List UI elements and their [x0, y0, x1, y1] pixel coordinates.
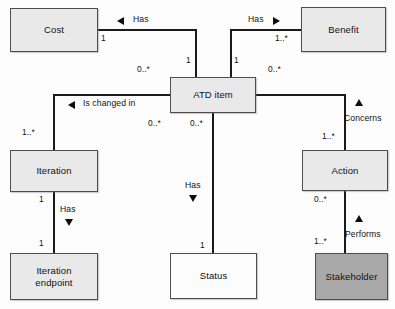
mult-action-bottom: 0..* [314, 194, 327, 204]
arrow-has-status-icon [189, 195, 197, 202]
node-stakeholder-label: Stakeholder [326, 271, 378, 283]
mult-atd-to-iteration: 0..* [148, 118, 161, 128]
mult-atd-to-status: 0..* [190, 118, 203, 128]
arrow-has-benefit-icon [273, 17, 280, 25]
node-iteration-endpoint[interactable]: Iteration endpoint [10, 253, 98, 300]
edge-label-has-benefit: Has [248, 14, 264, 24]
arrow-performs-icon [355, 215, 363, 222]
node-iteration[interactable]: Iteration [10, 150, 98, 192]
node-iteration-label: Iteration [36, 165, 71, 177]
node-cost-label: Cost [44, 24, 64, 36]
node-stakeholder[interactable]: Stakeholder [315, 253, 388, 300]
mult-atd-top-left: 1 [186, 55, 191, 65]
node-benefit-label: Benefit [328, 24, 358, 36]
mult-atd-to-action: 0..* [268, 64, 281, 74]
edge-label-has-cost: Has [133, 14, 149, 24]
arrow-concerns-icon [355, 99, 363, 106]
edge-label-has-status: Has [185, 180, 201, 190]
mult-iteration-end: 1..* [22, 127, 35, 137]
node-action[interactable]: Action [302, 150, 388, 191]
edge-label-is-changed-in: Is changed in [83, 98, 135, 108]
edge-label-performs: Performs [345, 229, 381, 239]
node-action-label: Action [331, 165, 358, 177]
mult-action-to-atd: 1..* [322, 131, 335, 141]
arrow-has-cost-icon [117, 17, 124, 25]
mult-benefit-end: 1..* [275, 33, 288, 43]
edge-atd-action [256, 95, 345, 150]
node-status-label: Status [200, 270, 228, 282]
arrow-is-changed-in-icon [68, 101, 75, 109]
mult-atd-to-cost: 0..* [137, 64, 150, 74]
uml-class-diagram: Cost Benefit ATD item Iteration Action I… [0, 0, 395, 309]
node-status[interactable]: Status [170, 253, 257, 299]
arrow-has-iteration-endpoint-icon [65, 219, 73, 226]
edge-label-concerns: Concerns [344, 113, 382, 123]
mult-status-end: 1 [200, 240, 205, 250]
mult-stake-top: 1..* [314, 236, 327, 246]
edge-label-has-iteration-endpoint: Has [60, 204, 76, 214]
node-benefit[interactable]: Benefit [301, 7, 386, 52]
mult-iteration-bottom: 1 [39, 194, 44, 204]
node-atd-item-label: ATD item [193, 89, 233, 101]
node-atd-item[interactable]: ATD item [170, 77, 256, 113]
node-iteration-endpoint-label: Iteration endpoint [35, 265, 72, 288]
mult-cost-end: 1 [101, 33, 106, 43]
mult-iterend-top: 1 [39, 238, 44, 248]
edge-atd-benefit [231, 30, 301, 77]
node-cost[interactable]: Cost [10, 8, 98, 52]
mult-atd-to-benefit: 1 [234, 55, 239, 65]
